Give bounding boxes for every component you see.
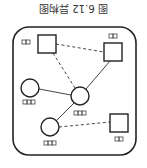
edge-D-E — [56, 103, 74, 121]
edge-E-F — [59, 122, 110, 127]
figure-title: 图 6.12 异构图 — [39, 3, 108, 15]
node-C-label — [23, 100, 35, 104]
node-D-label — [74, 111, 86, 115]
node-B-square — [104, 43, 122, 61]
graph-nodes — [21, 34, 128, 145]
figure-canvas: 图 6.12 异构图 — [0, 0, 147, 168]
edge-C-D — [39, 89, 71, 95]
node-E-label — [44, 141, 56, 145]
node-E-circle — [41, 118, 59, 136]
node-A-square — [38, 35, 56, 53]
figure-title-group: 图 6.12 异构图 — [39, 3, 108, 15]
edge-A-B — [56, 44, 104, 52]
edge-A-D — [53, 53, 75, 88]
node-D-circle — [71, 87, 89, 105]
edge-B-D — [86, 61, 110, 89]
node-C-circle — [21, 79, 39, 97]
node-B-label — [109, 34, 117, 38]
node-A-label — [22, 40, 30, 44]
node-F-label — [115, 137, 123, 141]
node-F-square — [110, 114, 128, 132]
graph-edges — [39, 44, 110, 127]
heterogeneous-graph-figure: 图 6.12 异构图 — [0, 0, 147, 168]
